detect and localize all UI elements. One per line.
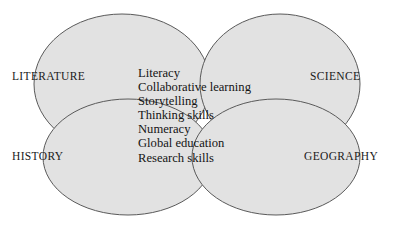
venn-diagram: LITERATURE SCIENCE HISTORY GEOGRAPHY Lit… — [0, 0, 406, 229]
list-item: Research skills — [138, 151, 251, 165]
list-item: Collaborative learning — [138, 80, 251, 94]
corner-label-history: HISTORY — [12, 151, 63, 163]
corner-label-geography: GEOGRAPHY — [304, 151, 378, 163]
list-item: Global education — [138, 136, 251, 150]
corner-label-science: SCIENCE — [310, 71, 360, 83]
list-item: Numeracy — [138, 122, 251, 136]
corner-label-literature: LITERATURE — [12, 71, 85, 83]
list-item: Storytelling — [138, 94, 251, 108]
shared-skills-list: Literacy Collaborative learning Storytel… — [138, 66, 251, 165]
list-item: Thinking skills — [138, 108, 251, 122]
list-item: Literacy — [138, 66, 251, 80]
